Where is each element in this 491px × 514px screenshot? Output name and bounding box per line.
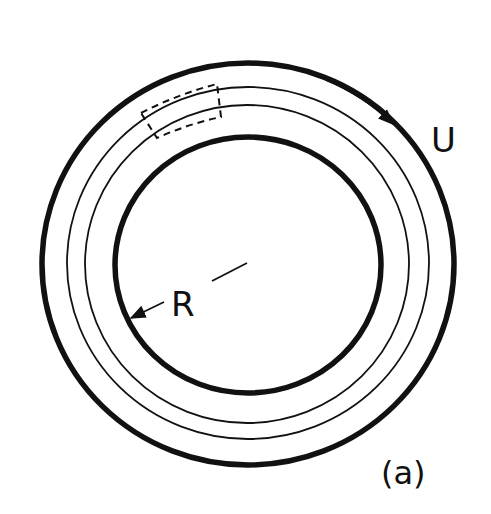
radius-label: R	[171, 284, 195, 324]
inner-wall-circle	[115, 137, 381, 393]
outer-streamline	[67, 87, 429, 439]
annulus-diagram: U R (a)	[0, 0, 491, 514]
dashed-control-region	[141, 84, 221, 138]
panel-label: (a)	[381, 454, 426, 492]
velocity-label: U	[431, 120, 456, 160]
radius-center-line	[212, 263, 247, 281]
rotation-arrow-icon	[326, 80, 393, 124]
diagram-canvas: U R (a)	[0, 0, 491, 514]
radius-arrow-icon	[131, 302, 164, 318]
